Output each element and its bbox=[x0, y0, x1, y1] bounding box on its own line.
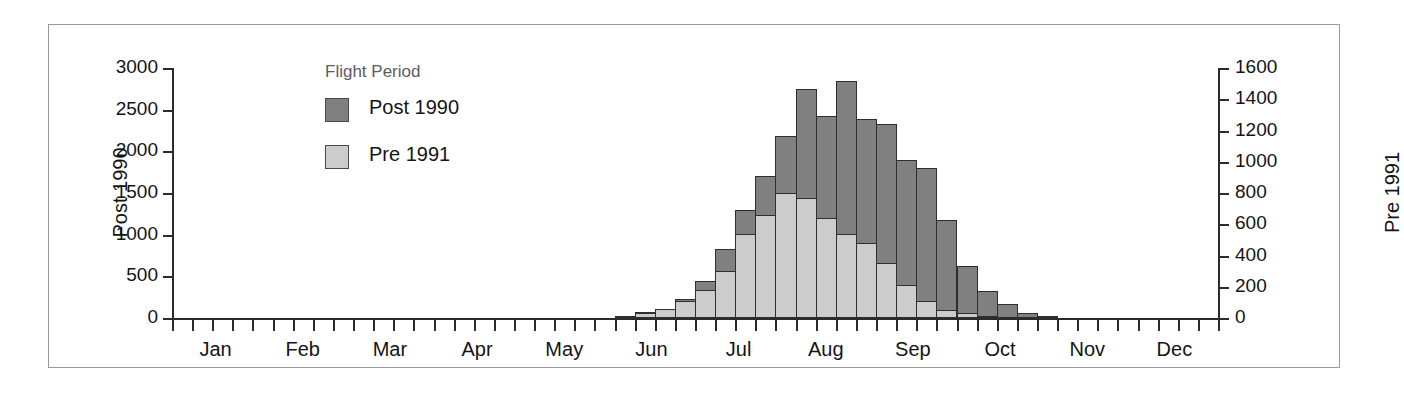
bar-post-1990 bbox=[1037, 316, 1058, 318]
x-tick bbox=[293, 320, 295, 331]
bar-post-1990 bbox=[916, 168, 937, 318]
bar-pre-1991 bbox=[796, 198, 817, 318]
x-axis-month-label: Feb bbox=[263, 338, 343, 361]
bar-post-1990 bbox=[957, 266, 978, 319]
bar-pre-1991 bbox=[655, 309, 676, 318]
bar-pre-1991 bbox=[615, 316, 636, 318]
y-tick-left bbox=[163, 193, 172, 195]
x-tick bbox=[313, 320, 315, 331]
x-tick bbox=[373, 320, 375, 331]
x-tick bbox=[997, 320, 999, 331]
x-tick bbox=[977, 320, 979, 331]
y-tick-label-right: 1200 bbox=[1235, 119, 1277, 141]
bar-post-1990 bbox=[977, 291, 998, 319]
y-tick-right bbox=[1220, 287, 1229, 289]
x-tick bbox=[655, 320, 657, 331]
x-tick bbox=[232, 320, 234, 331]
bar-post-1990 bbox=[1017, 313, 1038, 318]
legend-label-post-1990: Post 1990 bbox=[369, 96, 459, 119]
y-tick-label-left: 0 bbox=[147, 306, 158, 328]
x-axis-month-label: Oct bbox=[960, 338, 1040, 361]
y-tick-right bbox=[1220, 162, 1229, 164]
x-tick bbox=[635, 320, 637, 331]
y-tick-left bbox=[163, 276, 172, 278]
x-tick bbox=[1158, 320, 1160, 331]
x-tick bbox=[1057, 320, 1059, 331]
x-axis-month-label: Aug bbox=[786, 338, 866, 361]
y-tick-right bbox=[1220, 256, 1229, 258]
y-tick-left bbox=[163, 68, 172, 70]
x-axis-month-label: Dec bbox=[1134, 338, 1214, 361]
x-axis-month-label: Jul bbox=[699, 338, 779, 361]
bar-pre-1991 bbox=[896, 285, 917, 318]
x-tick bbox=[615, 320, 617, 331]
x-tick bbox=[172, 320, 174, 331]
x-tick bbox=[816, 320, 818, 331]
x-tick bbox=[775, 320, 777, 331]
bar-pre-1991 bbox=[977, 316, 998, 318]
y-tick-label-right: 1000 bbox=[1235, 150, 1277, 172]
y-tick-left bbox=[163, 110, 172, 112]
x-tick bbox=[675, 320, 677, 331]
y-tick-label-left: 3000 bbox=[116, 56, 158, 78]
legend-swatch-pre-1991 bbox=[325, 145, 349, 169]
x-tick bbox=[454, 320, 456, 331]
x-tick bbox=[413, 320, 415, 331]
x-tick bbox=[856, 320, 858, 331]
x-tick bbox=[1178, 320, 1180, 331]
y-tick-left bbox=[163, 151, 172, 153]
y-tick-label-right: 800 bbox=[1235, 181, 1267, 203]
x-tick bbox=[273, 320, 275, 331]
x-tick bbox=[1097, 320, 1099, 331]
y-tick-right bbox=[1220, 99, 1229, 101]
y-tick-label-right: 0 bbox=[1235, 306, 1246, 328]
x-tick bbox=[755, 320, 757, 331]
x-tick bbox=[192, 320, 194, 331]
y-tick-right bbox=[1220, 193, 1229, 195]
y-tick-right bbox=[1220, 318, 1229, 320]
bar-post-1990 bbox=[997, 304, 1018, 318]
bar-pre-1991 bbox=[735, 234, 756, 318]
y-tick-right bbox=[1220, 131, 1229, 133]
x-tick bbox=[916, 320, 918, 331]
x-tick bbox=[1198, 320, 1200, 331]
x-tick bbox=[494, 320, 496, 331]
x-tick bbox=[957, 320, 959, 331]
x-tick bbox=[936, 320, 938, 331]
x-axis-month-label: Apr bbox=[437, 338, 517, 361]
bar-pre-1991 bbox=[635, 313, 656, 318]
bar-pre-1991 bbox=[916, 301, 937, 318]
x-tick bbox=[1017, 320, 1019, 331]
x-axis-month-label: Jun bbox=[611, 338, 691, 361]
y-tick-label-right: 200 bbox=[1235, 275, 1267, 297]
x-tick bbox=[353, 320, 355, 331]
x-axis-month-label: Jan bbox=[176, 338, 256, 361]
x-axis-month-label: Mar bbox=[350, 338, 430, 361]
y-tick-label-right: 600 bbox=[1235, 212, 1267, 234]
x-tick bbox=[715, 320, 717, 331]
x-tick bbox=[252, 320, 254, 331]
x-tick bbox=[876, 320, 878, 331]
y-tick-right bbox=[1220, 224, 1229, 226]
x-tick bbox=[434, 320, 436, 331]
bar-pre-1991 bbox=[755, 215, 776, 318]
bar-post-1990 bbox=[936, 220, 957, 318]
x-tick bbox=[1117, 320, 1119, 331]
x-axis-month-label: Sep bbox=[873, 338, 953, 361]
bar-pre-1991 bbox=[856, 243, 877, 318]
y-axis-title-left: Post 1990 bbox=[109, 113, 132, 273]
x-tick bbox=[896, 320, 898, 331]
y-axis-line-left bbox=[172, 68, 174, 320]
x-tick bbox=[1037, 320, 1039, 331]
x-tick bbox=[735, 320, 737, 331]
bar-pre-1991 bbox=[997, 317, 1018, 319]
legend-label-pre-1991: Pre 1991 bbox=[369, 143, 450, 166]
bar-pre-1991 bbox=[957, 313, 978, 318]
x-tick bbox=[695, 320, 697, 331]
y-tick-label-right: 400 bbox=[1235, 244, 1267, 266]
bar-pre-1991 bbox=[836, 234, 857, 318]
bar-pre-1991 bbox=[876, 263, 897, 318]
x-tick bbox=[534, 320, 536, 331]
y-tick-label-right: 1400 bbox=[1235, 87, 1277, 109]
